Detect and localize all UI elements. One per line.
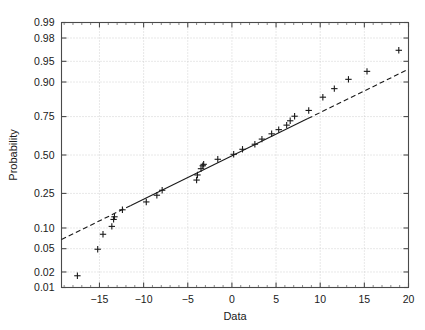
plot-canvas: −15−10−505101520 0.010.020.050.100.250.5…: [0, 0, 425, 330]
x-tick-label: −10: [135, 293, 153, 305]
data-point-marker: [252, 141, 258, 147]
x-axis-title: Data: [223, 310, 247, 322]
data-point-marker: [268, 131, 274, 137]
y-tick-label: 0.98: [34, 32, 55, 44]
gridlines-group: [62, 23, 409, 288]
y-tick-label: 0.95: [34, 55, 55, 67]
reference-line-upper-dashed: [308, 69, 409, 118]
x-tick-labels-group: −15−10−505101520: [91, 293, 415, 305]
data-point-marker: [306, 107, 312, 113]
y-tick-label: 0.01: [34, 281, 55, 293]
x-tick-label: −5: [182, 293, 194, 305]
data-point-marker: [364, 68, 370, 74]
y-tick-label: 0.10: [34, 222, 55, 234]
y-tick-label: 0.50: [34, 149, 55, 161]
data-point-marker: [154, 192, 160, 198]
y-tick-label: 0.90: [34, 76, 55, 88]
data-point-marker: [193, 177, 199, 183]
x-tick-label: 5: [273, 293, 279, 305]
data-point-marker: [287, 118, 293, 124]
data-point-marker: [95, 246, 101, 252]
reference-line-lower-dashed: [62, 206, 131, 240]
data-point-marker: [396, 47, 402, 53]
probability-plot-figure: −15−10−505101520 0.010.020.050.100.250.5…: [0, 0, 425, 330]
y-tick-label: 0.02: [34, 266, 55, 278]
data-point-marker: [143, 199, 149, 205]
y-axis-title: Probability: [7, 129, 19, 181]
data-point-marker: [320, 94, 326, 100]
x-tick-label: −15: [91, 293, 109, 305]
data-point-marker: [345, 76, 351, 82]
x-tick-label: 20: [403, 293, 415, 305]
x-tick-label: 15: [359, 293, 371, 305]
x-tick-label: 0: [229, 293, 235, 305]
data-point-marker: [74, 273, 80, 279]
data-point-marker: [259, 136, 265, 142]
data-point-marker: [291, 113, 297, 119]
data-point-marker: [109, 223, 115, 229]
y-tick-label: 0.99: [34, 16, 55, 28]
x-tick-label: 10: [314, 293, 326, 305]
data-point-marker: [194, 172, 200, 178]
y-tick-label: 0.25: [34, 187, 55, 199]
y-tick-labels-group: 0.010.020.050.100.250.500.750.900.950.98…: [34, 16, 55, 293]
data-point-marker: [100, 231, 106, 237]
data-point-marker: [119, 207, 125, 213]
data-point-marker: [331, 85, 337, 91]
y-tick-label: 0.75: [34, 110, 55, 122]
y-tick-label: 0.05: [34, 242, 55, 254]
data-point-marker: [159, 187, 165, 193]
